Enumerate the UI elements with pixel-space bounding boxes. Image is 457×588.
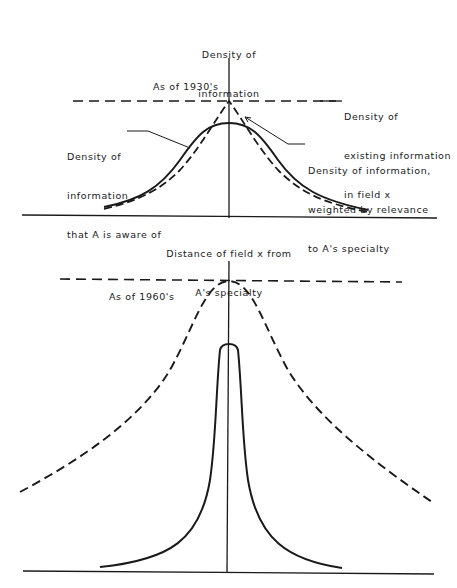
aware-label-line-2: information <box>67 189 161 202</box>
y-axis-label-line-1: Density of <box>179 48 279 61</box>
aware-label-line-1: Density of <box>67 150 161 163</box>
weighted-label-line-2: weighted by relevance <box>308 203 431 216</box>
weighted-label-line-1: Density of information, <box>308 164 431 177</box>
top-era-label: As of 1930's <box>153 80 219 93</box>
bottom-weighted-curve <box>20 281 432 502</box>
top-weighted-arrowhead <box>245 117 251 122</box>
x-axis-label-line-1: Distance of field x from <box>139 247 319 260</box>
bottom-x-axis <box>23 571 434 574</box>
bottom-era-label: As of 1960's <box>109 290 175 303</box>
weighted-label-line-3: to A's specialty <box>308 242 431 255</box>
bottom-aware-curve <box>100 344 342 568</box>
existing-label-line-1: Density of <box>344 110 451 123</box>
top-y-axis-label: Density of information <box>179 22 279 113</box>
top-weighted-label: Density of information, weighted by rele… <box>308 138 431 268</box>
